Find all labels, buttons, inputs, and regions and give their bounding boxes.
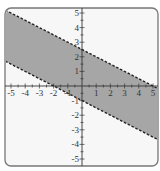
x-tick-label: -2: [50, 88, 58, 98]
y-tick-label: 4: [75, 23, 80, 33]
x-tick-label: 5: [151, 88, 156, 98]
y-tick-label: -1: [72, 96, 80, 106]
y-tick-label: 1: [75, 66, 80, 76]
y-tick-label: 3: [75, 37, 80, 47]
x-tick-label: 1: [94, 88, 99, 98]
x-tick-label: -4: [21, 88, 29, 98]
x-tick-label: 4: [137, 88, 142, 98]
x-tick-label: 3: [122, 88, 127, 98]
y-tick-label: -3: [72, 125, 80, 135]
y-tick-label: -4: [72, 139, 80, 149]
coordinate-plane: -5-4-3-2-112345-5-4-3-2-112345: [0, 0, 160, 171]
x-tick-label: 2: [108, 88, 113, 98]
y-tick-label: 5: [75, 8, 80, 18]
x-tick-label: -5: [7, 88, 15, 98]
y-tick-label: -2: [72, 110, 80, 120]
y-tick-label: -5: [72, 154, 80, 164]
y-tick-label: 2: [75, 52, 80, 62]
x-tick-label: -3: [36, 88, 44, 98]
inequality-graph: -5-4-3-2-112345-5-4-3-2-112345: [0, 0, 160, 171]
x-tick-label: -1: [64, 88, 72, 98]
